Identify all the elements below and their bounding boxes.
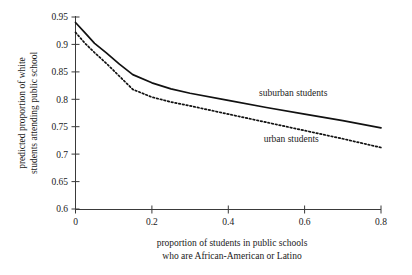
y-axis-title: predicted proportion of white students a… <box>17 52 39 175</box>
x-tick-label: 0.6 <box>299 217 311 227</box>
y-tick-label: 0.6 <box>56 204 68 214</box>
y-tick-labels: 0.95 0.9 0.85 0.8 0.75 0.7 0.65 0.6 <box>51 12 68 214</box>
x-axis-title-line2: who are African-American or Latino <box>162 251 302 261</box>
x-axis-title-line1: proportion of students in public schools <box>157 238 308 248</box>
series-label-suburban-students: suburban students <box>259 88 328 98</box>
y-tick-label: 0.75 <box>51 122 68 132</box>
x-axis-title: proportion of students in public schools… <box>157 238 308 261</box>
y-axis-title-line2: students attending public school <box>29 52 39 175</box>
y-tick-label: 0.9 <box>56 40 68 50</box>
x-tick-label: 0.8 <box>375 217 387 227</box>
x-tick-labels: 0 0.2 0.4 0.6 0.8 <box>73 217 387 227</box>
y-tick-label: 0.7 <box>56 150 68 160</box>
chart-figure: 0.95 0.9 0.85 0.8 0.75 0.7 0.65 0.6 0 0.… <box>0 0 412 275</box>
series-line-urban-students <box>76 32 382 147</box>
chart-svg: 0.95 0.9 0.85 0.8 0.75 0.7 0.65 0.6 0 0.… <box>0 0 412 275</box>
series-line-suburban-students <box>76 22 382 127</box>
x-tick-label: 0 <box>73 217 78 227</box>
x-tick-label: 0.2 <box>146 217 158 227</box>
y-tick-label: 0.8 <box>56 95 68 105</box>
x-tick-label: 0.4 <box>222 217 234 227</box>
y-tick-label: 0.65 <box>51 177 68 187</box>
y-tick-label: 0.85 <box>51 67 68 77</box>
y-tick-label: 0.95 <box>51 12 68 22</box>
y-axis-title-line1: predicted proportion of white <box>17 57 27 169</box>
series-label-urban-students: urban students <box>264 134 319 144</box>
